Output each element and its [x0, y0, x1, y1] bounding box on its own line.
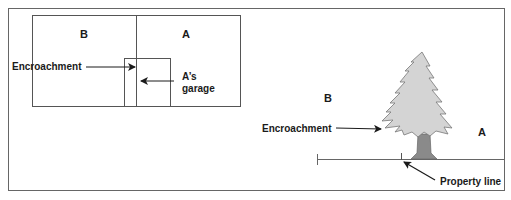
lot-a-label: A [478, 126, 486, 138]
encroachment-label: Encroachment [262, 123, 332, 134]
garage-label-line2: garage [182, 83, 215, 94]
garage-label-line1: A’s [182, 71, 197, 82]
garage-outline [125, 59, 171, 107]
tree-trunk [411, 134, 437, 159]
tree-icon [382, 52, 452, 137]
lot-b-label: B [80, 28, 88, 40]
encroachment-diagram: B A Encroachment A’s garage B A Encroach… [0, 0, 511, 200]
encroachment-label: Encroachment [12, 61, 82, 72]
lot-b-label: B [324, 92, 332, 104]
property-line-label: Property line [440, 176, 502, 187]
lot-a-label: A [182, 28, 190, 40]
property-line-arrow [404, 162, 435, 180]
encroachment-arrow [336, 128, 381, 129]
left-diagram: B A Encroachment A’s garage [12, 16, 241, 107]
right-diagram: B A Encroachment Property line [262, 52, 505, 187]
